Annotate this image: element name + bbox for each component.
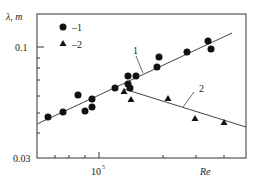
y-tick-label-0.1: 0.1: [15, 42, 28, 53]
x-tick-label-exp: 5: [102, 164, 105, 170]
x-tick-label-base: 10: [91, 166, 101, 177]
plot-frame: [37, 14, 246, 158]
fit-line-2: [124, 89, 246, 127]
legend-label-1: –1: [71, 22, 82, 33]
x-axis-ticks: [55, 152, 224, 158]
y-tick-label-0.03: 0.03: [13, 153, 31, 164]
annotation-leader-1: [136, 56, 143, 73]
legend-triangle-marker: [60, 40, 67, 46]
legend-label-2: –2: [71, 39, 82, 50]
x-axis-label: Re: [199, 166, 211, 177]
y-axis-ticks: [37, 47, 44, 133]
annotation-leader-2: [183, 92, 194, 107]
series-2-points: [121, 88, 228, 125]
annotation-label-1: 1: [133, 45, 138, 56]
y-axis-label: λ, m: [5, 11, 23, 22]
legend-circle-marker: [60, 24, 67, 31]
chart: λ, m 0.1 0.03 10 5 Re –1 –2 1 2: [0, 0, 257, 185]
annotation-label-2: 2: [199, 83, 204, 94]
